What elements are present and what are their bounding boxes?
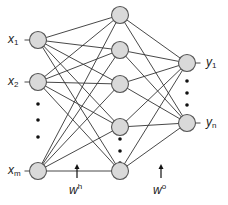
output-node [179,55,196,72]
ellipsis-dot [185,91,189,95]
hidden-node [112,76,129,93]
input-node [30,163,47,180]
edge-input-hidden [38,82,120,127]
ellipsis-dot [36,102,40,106]
ellipsis-dot [185,79,189,83]
input-label-x2: x2 [8,75,18,89]
input-node [30,74,47,91]
hidden-node [112,42,129,59]
input-label-x1: x1 [8,33,18,47]
edge-input-hidden [38,50,120,171]
input-node [30,32,47,49]
hidden-weights-label: wh [69,183,82,196]
edge-hidden-output [120,123,187,127]
ellipsis-dot [118,149,122,153]
edge-input-hidden [38,15,120,171]
arrow-up-icon [159,164,164,169]
edge-hidden-output [120,123,187,171]
ellipsis-dot [36,118,40,122]
hidden-node [112,119,129,136]
edge-hidden-output [120,15,187,63]
edge-input-hidden [38,15,120,40]
arrow-up-icon [75,164,80,169]
output-label-yn: yn [206,116,216,130]
ellipsis-dot [118,137,122,141]
ellipsis-dot [185,103,189,107]
edge-hidden-output [120,63,187,84]
output-weights-label: wo [153,183,166,196]
hidden-node [112,7,129,24]
edge-input-hidden [38,40,120,171]
ellipsis-dot [36,135,40,139]
output-label-y1: y1 [206,56,216,70]
edge-hidden-output [120,15,187,123]
input-label-xm: xm [8,164,21,178]
hidden-node [112,163,129,180]
connection-edges [25,15,201,171]
edge-input-hidden [38,127,120,171]
neural-network-diagram [0,0,228,205]
output-node [179,115,196,132]
